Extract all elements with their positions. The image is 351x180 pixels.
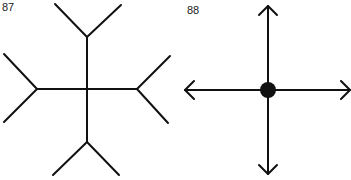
figures-canvas [0,0,351,180]
center-dot [260,82,276,98]
figure-87-forked-cross [4,4,170,175]
